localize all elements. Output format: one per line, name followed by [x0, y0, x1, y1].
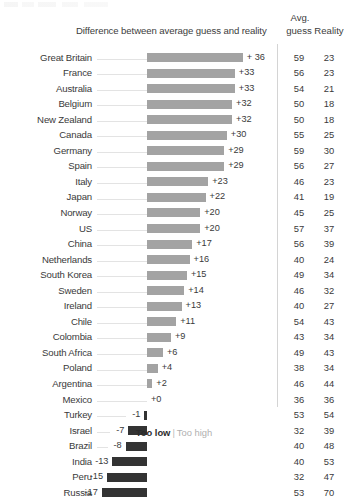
country-label: Japan	[0, 191, 92, 202]
difference-bar	[147, 224, 200, 233]
top-edge-artifact	[4, 2, 108, 7]
reality-column-header: Reality	[310, 25, 348, 36]
country-label: US	[0, 223, 92, 234]
reality-value: 18	[311, 98, 347, 109]
difference-bar	[147, 100, 232, 109]
country-label: Poland	[0, 362, 92, 373]
difference-bar	[147, 131, 227, 140]
difference-value-label: +17	[196, 238, 212, 248]
reality-value: 36	[311, 394, 347, 405]
leader-line	[97, 276, 147, 277]
chart-row: Australia+335421	[0, 81, 348, 97]
country-label: Chile	[0, 316, 92, 327]
difference-value-label: -13	[78, 456, 108, 466]
chart-row: South Korea+154934	[0, 268, 348, 284]
country-label: South Africa	[0, 347, 92, 358]
reality-value: 39	[311, 238, 347, 249]
country-label: South Korea	[0, 269, 92, 280]
reality-value: 48	[311, 440, 347, 451]
reality-value: 21	[311, 83, 347, 94]
difference-value-label: +11	[180, 316, 195, 326]
difference-value-label: -8	[92, 440, 122, 450]
difference-value-label: +15	[191, 269, 207, 279]
leader-line	[97, 292, 147, 293]
leader-line	[97, 385, 147, 386]
difference-column-header: Difference between average guess and rea…	[76, 25, 276, 36]
reality-value: 18	[311, 114, 347, 125]
difference-bar	[147, 53, 243, 62]
reality-value: 43	[311, 347, 347, 358]
difference-value-label: +23	[212, 176, 228, 186]
chart-row: Great Britain+ 365923	[0, 50, 348, 66]
difference-value-label: -17	[68, 487, 98, 497]
country-label: Australia	[0, 83, 92, 94]
difference-bar	[126, 442, 147, 451]
difference-bar	[147, 146, 224, 155]
chart-row: Brazil-84048	[0, 439, 348, 455]
reality-value: 23	[311, 52, 347, 63]
difference-bar	[147, 240, 192, 249]
chart-row: Canada+305525	[0, 128, 348, 144]
country-label: Sweden	[0, 285, 92, 296]
reality-value: 23	[311, 176, 347, 187]
chart-row: Japan+224119	[0, 190, 348, 206]
difference-bar	[147, 255, 190, 264]
difference-value-label: +20	[204, 207, 220, 217]
chart-row: Peru-153247	[0, 470, 348, 486]
leader-line	[97, 74, 147, 75]
chart-row: Norway+204525	[0, 205, 348, 221]
country-label: Argentina	[0, 378, 92, 389]
difference-bar	[147, 317, 176, 326]
chart-row: Chile+115443	[0, 314, 348, 330]
leader-line	[97, 401, 147, 402]
difference-bar	[147, 302, 182, 311]
difference-bar	[144, 411, 147, 420]
leader-line	[97, 370, 147, 371]
reality-value: 34	[311, 362, 347, 373]
difference-bar	[107, 473, 147, 482]
chart-row: Spain+295627	[0, 159, 348, 175]
country-label: Ireland	[0, 300, 92, 311]
legend: Too low|Too high	[0, 427, 348, 438]
chart-row: US+205737	[0, 221, 348, 237]
reality-value: 54	[311, 409, 347, 420]
leader-line	[97, 214, 147, 215]
chart-row: Colombia+94334	[0, 330, 348, 346]
legend-separator: |	[172, 427, 174, 438]
reality-value: 43	[311, 316, 347, 327]
leader-line	[97, 152, 147, 153]
chart-row: Argentina+24644	[0, 376, 348, 392]
reality-value: 25	[311, 207, 347, 218]
country-label: Colombia	[0, 331, 92, 342]
difference-value-label: +16	[194, 254, 210, 264]
reality-value: 34	[311, 269, 347, 280]
country-label: France	[0, 67, 92, 78]
country-label: Belgium	[0, 98, 92, 109]
difference-bar	[102, 488, 147, 497]
reality-value: 23	[311, 67, 347, 78]
difference-bar	[112, 457, 147, 466]
country-label: Italy	[0, 176, 92, 187]
avg-header-line1: Avg.	[283, 12, 317, 23]
country-label: Brazil	[0, 440, 92, 451]
leader-line	[97, 338, 147, 339]
legend-too-low-label: Too low	[136, 427, 171, 438]
chart-row: South Africa+64943	[0, 345, 348, 361]
difference-bar	[147, 348, 163, 357]
reality-value: 37	[311, 223, 347, 234]
difference-value-label: +33	[239, 83, 255, 93]
leader-line	[97, 323, 147, 324]
country-label: China	[0, 238, 92, 249]
difference-value-label: +6	[167, 347, 177, 357]
country-label: Mexico	[0, 394, 92, 405]
chart-row: Belgium+325018	[0, 97, 348, 113]
leader-line	[97, 167, 147, 168]
reality-value: 27	[311, 300, 347, 311]
difference-value-label: +32	[236, 114, 252, 124]
difference-value-label: + 36	[247, 52, 265, 62]
leader-line	[97, 121, 147, 122]
country-label: New Zealand	[0, 114, 92, 125]
country-label: Spain	[0, 160, 92, 171]
leader-line	[97, 59, 147, 60]
